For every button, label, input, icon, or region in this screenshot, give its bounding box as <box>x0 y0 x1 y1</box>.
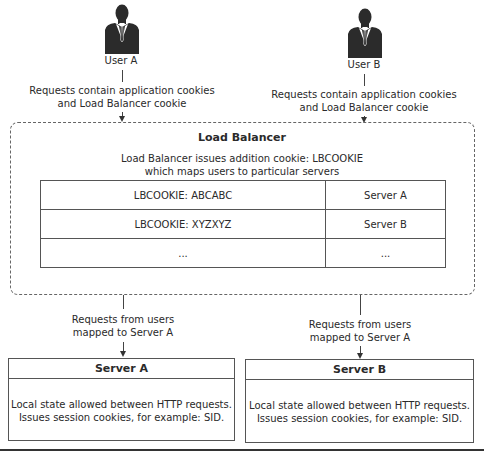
user-b-request-note: Requests contain application cookies and… <box>264 88 464 114</box>
server-cell: Server A <box>326 181 446 210</box>
user-b-request-note-line2: and Load Balancer cookie <box>264 101 464 114</box>
user-b-label: User B <box>334 59 394 70</box>
route-b-connector <box>360 295 361 315</box>
load-balancer-description-line2: which maps users to particular servers <box>0 165 484 178</box>
server-cell: ... <box>326 239 446 268</box>
load-balancer-description: Load Balancer issues addition cookie: LB… <box>0 152 484 178</box>
route-a-arrowhead-icon <box>120 351 126 357</box>
server-b-box: Server B Local state allowed between HTT… <box>245 359 474 443</box>
server-a-title: Server A <box>9 359 234 379</box>
server-a-description-line2: Issues session cookies, for example: SID… <box>9 411 234 424</box>
server-a-box: Server A Local state allowed between HTT… <box>8 358 235 441</box>
cookie-cell: LBCOOKIE: ABCABC <box>41 181 326 210</box>
route-a-note-line1: Requests from users <box>23 313 223 326</box>
user-a-person-icon <box>103 4 141 54</box>
table-row: LBCOOKIE: XYZXYZ Server B <box>41 210 446 239</box>
user-a-label: User A <box>91 55 151 66</box>
user-a-request-note-line2: and Load Balancer cookie <box>22 97 222 110</box>
route-a-connector <box>123 295 124 309</box>
server-b-description: Local state allowed between HTTP request… <box>246 399 473 425</box>
server-b-title: Server B <box>246 360 473 380</box>
user-b-connector <box>364 74 365 86</box>
load-balancer-description-line1: Load Balancer issues addition cookie: LB… <box>0 152 484 165</box>
route-b-note: Requests from users mapped to Server A <box>260 318 460 344</box>
user-a-request-note: Requests contain application cookies and… <box>22 84 222 110</box>
server-b-description-line2: Issues session cookies, for example: SID… <box>246 412 473 425</box>
route-a-note: Requests from users mapped to Server A <box>23 313 223 339</box>
cookie-cell: ... <box>41 239 326 268</box>
server-b-description-line1: Local state allowed between HTTP request… <box>246 399 473 412</box>
server-a-description-line1: Local state allowed between HTTP request… <box>9 398 234 411</box>
load-balancer-title: Load Balancer <box>0 131 484 144</box>
server-cell: Server B <box>326 210 446 239</box>
user-b-person-icon <box>346 8 384 58</box>
cookie-cell: LBCOOKIE: XYZXYZ <box>41 210 326 239</box>
user-a-request-note-line1: Requests contain application cookies <box>22 84 222 97</box>
route-b-note-line1: Requests from users <box>260 318 460 331</box>
route-a-note-line2: mapped to Server A <box>23 326 223 339</box>
table-row: LBCOOKIE: ABCABC Server A <box>41 181 446 210</box>
table-row: ... ... <box>41 239 446 268</box>
route-b-note-line2: mapped to Server A <box>260 331 460 344</box>
bottom-rule-divider <box>0 449 484 451</box>
user-a-connector <box>122 70 123 82</box>
user-b-request-note-line1: Requests contain application cookies <box>264 88 464 101</box>
server-a-description: Local state allowed between HTTP request… <box>9 398 234 424</box>
route-a-arrow-line <box>123 342 124 351</box>
cookie-mapping-table: LBCOOKIE: ABCABC Server A LBCOOKIE: XYZX… <box>40 180 446 268</box>
